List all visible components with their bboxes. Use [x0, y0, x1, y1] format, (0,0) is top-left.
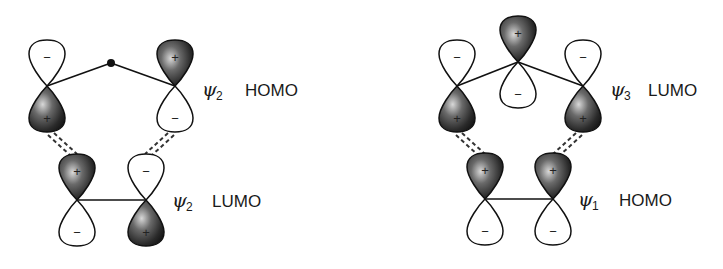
sign-label: + [171, 50, 179, 65]
p-orbital-top-left: − + [29, 40, 65, 132]
sign-label: − [73, 225, 81, 240]
psi-subscript: 2 [216, 89, 223, 103]
dashed-interaction-right [145, 133, 174, 156]
sign-label: − [481, 224, 489, 239]
orbital-label-upper-right: ψ 3 LUMO [610, 78, 697, 103]
left-panel: − + + − ψ 2 HOMO + [29, 40, 298, 246]
sign-label: − [514, 87, 522, 102]
sign-label: − [43, 50, 51, 65]
frontier-label: HOMO [619, 191, 672, 210]
sign-label: + [549, 163, 557, 178]
psi-subscript: 2 [186, 200, 193, 214]
psi-subscript: 3 [624, 89, 631, 103]
sign-label: + [481, 163, 489, 178]
sign-label: + [453, 111, 461, 126]
p-orbital-top-center: + − [500, 16, 536, 108]
sign-label: − [549, 224, 557, 239]
orbital-label-lower-right: ψ 1 HOMO [578, 188, 672, 213]
sign-label: − [453, 50, 461, 65]
sign-label: + [579, 111, 587, 126]
sign-label: + [73, 164, 81, 179]
frontier-label: LUMO [648, 81, 697, 100]
sign-label: + [142, 225, 150, 240]
sign-label: − [142, 164, 150, 179]
sign-label: + [514, 26, 522, 41]
orbital-label-lower-left: ψ 2 LUMO [172, 189, 261, 214]
orbital-label-upper-left: ψ 2 HOMO [202, 78, 298, 103]
sign-label: − [171, 111, 179, 126]
p-orbital-top-left: − + [439, 40, 475, 132]
frontier-label: LUMO [212, 192, 261, 211]
mo-diagram: − + + − ψ 2 HOMO + [0, 0, 723, 269]
sign-label: − [579, 50, 587, 65]
psi-subscript: 1 [592, 199, 599, 213]
central-carbon-node-icon [107, 59, 115, 67]
p-orbital-top-right: − + [565, 40, 601, 132]
sign-label: + [43, 111, 51, 126]
frontier-label: HOMO [245, 81, 298, 100]
p-orbital-top-right: + − [157, 40, 193, 132]
dashed-interaction-left [48, 133, 77, 156]
right-panel: − + + − − + ψ 3 LUMO [439, 16, 697, 245]
